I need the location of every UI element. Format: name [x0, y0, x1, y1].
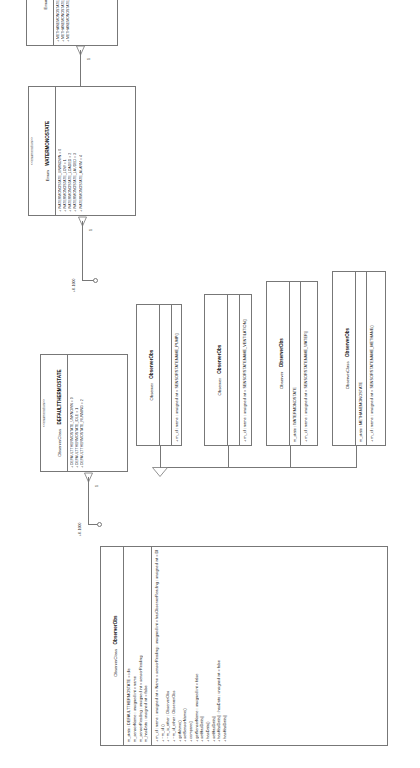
- class-name: ObserverObs: [279, 338, 284, 367]
- class-box-ventilation-observer[interactable]: Observer ObserverObs + m_id : name : uns…: [204, 294, 252, 446]
- edge-gen-methane: [356, 446, 357, 468]
- aggregation-circle-water: [93, 279, 98, 284]
- operation-row: + m_id : name : unsigned int = SENSORSTA…: [174, 308, 180, 442]
- edge-gen-water: [290, 446, 291, 468]
- enum-literal-row: + METHANEMONOSTATE_CRITICAL = 2: [66, 0, 71, 42]
- stereotype-label: <<enumeration>>: [31, 90, 35, 212]
- operation-row: + m_id : name : unsigned int = Name = se…: [154, 550, 160, 742]
- class-box-water-observer[interactable]: Observer ObserverObs m_state : WATERMONO…: [266, 281, 318, 446]
- class-attributes-water-observer: m_state : WATERMONOSTATE: [289, 282, 300, 445]
- attribute-row: m_state : METHANEMONOSTATE: [358, 275, 364, 442]
- diagram-canvas: +0..1000 1 +0..1000 1 +0..1000 1 Observe…: [0, 0, 420, 768]
- stereotype-label: <<enumeration>>: [29, 0, 33, 42]
- multiplicity-methane-one: 1: [87, 58, 91, 60]
- class-header-water-observer: Observer ObserverObs: [267, 282, 289, 445]
- enum-literals-water-mono-state: + WATERMONOSTATE_UNKNOWN = 0 + WATERMONO…: [55, 87, 85, 215]
- class-box-methane-observer[interactable]: ObserverClass ObserverObs m_state : METH…: [332, 271, 386, 446]
- generalization-triangle: [152, 467, 168, 477]
- class-box-pump-observer[interactable]: Observer ObserverObs + m_id : name : uns…: [136, 304, 182, 446]
- class-header-ventilation-observer: Observer ObserverObs: [205, 295, 227, 445]
- operation-row: + hasHasData(): [222, 550, 228, 742]
- edge-gen-ventilation: [228, 446, 229, 468]
- class-attributes-ventilation-observer: [227, 295, 239, 445]
- enum-header-default-thermo-state: <<enumeration>> ObserverClass DEFAULTTHE…: [41, 355, 67, 471]
- class-attributes-observer-base: m_state : DEFAULTTHERMOSTATE = idle m_se…: [123, 547, 151, 745]
- class-keyword: Observer: [217, 378, 222, 395]
- class-attributes-pump-observer: [159, 305, 171, 445]
- class-name: ObserverObs: [217, 345, 222, 374]
- class-operations-water-observer: + m_id : name : unsigned int = SENSORSTA…: [300, 282, 311, 445]
- enum-literals-default-thermo-state: + DEFAULTTHERMOSTATE_UNKNOWN = 0 + DEFAU…: [67, 355, 87, 471]
- multiplicity-base-to-thermo: +0..1000: [78, 523, 82, 536]
- class-keyword: ObserverClass: [345, 361, 350, 389]
- class-attributes-methane-observer: m_state : METHANEMONOSTATE: [355, 272, 366, 445]
- class-name: ObserverObs: [113, 615, 118, 644]
- enum-header-methane-mono-state: <<enumeration>> Enum METHANEMONOSTATE: [27, 0, 53, 45]
- class-keyword: Observer: [279, 372, 284, 389]
- arrowhead-thermostate: [84, 472, 93, 482]
- multiplicity-water-to-enum: +0..1000: [72, 279, 76, 292]
- edge-gen-pump: [160, 446, 161, 468]
- class-operations-pump-observer: + m_id : name : unsigned int = SENSORSTA…: [171, 305, 182, 445]
- enum-header-water-mono-state: <<enumeration>> Enum WATERMONOSTATE: [29, 87, 55, 215]
- attribute-row: m_state : WATERMONOSTATE: [292, 285, 298, 442]
- operation-row: + m_id : name : unsigned int = SENSORSTA…: [369, 275, 375, 442]
- multiplicity-thermo-one: 1: [95, 485, 99, 487]
- operation-row: + m_id : name : unsigned int = SENSORSTA…: [303, 285, 309, 442]
- class-operations-methane-observer: + m_id : name : unsigned int = SENSORSTA…: [366, 272, 377, 445]
- enum-literal-row: + WATERMONOSTATE_ALARM = 4: [79, 90, 84, 212]
- edge-generalization-trunk: [160, 467, 356, 468]
- attribute-row: m_hasData : unsigned int = false: [143, 550, 149, 742]
- class-keyword: Observer: [149, 383, 154, 400]
- class-operations-observer-base: + m_id : name : unsigned int = Name = se…: [151, 547, 230, 745]
- class-operations-ventilation-observer: + m_id : name : unsigned int = SENSORSTA…: [239, 295, 250, 445]
- diagram-stage: +0..1000 1 +0..1000 1 +0..1000 1 Observe…: [0, 0, 420, 768]
- class-header-observer-base: ObserverClass ObserverObs: [101, 547, 123, 745]
- enum-keyword: Enum: [43, 0, 48, 9]
- class-header-methane-observer: ObserverClass ObserverObs: [333, 272, 355, 445]
- class-header-pump-observer: Observer ObserverObs: [137, 305, 159, 445]
- operation-row: + m_id : name : unsigned int = SENSORSTA…: [242, 298, 248, 442]
- multiplicity-water-one: 1: [89, 229, 93, 231]
- class-keyword: ObserverClass: [113, 649, 118, 677]
- class-name: ObserverObs: [345, 328, 350, 357]
- enum-box-water-mono-state[interactable]: <<enumeration>> Enum WATERMONOSTATE + WA…: [28, 86, 136, 216]
- enum-name: DEFAULTTHERMOSTATE: [57, 369, 62, 424]
- aggregation-circle-base: [97, 523, 102, 528]
- enum-keyword: ObserverClass: [57, 429, 62, 457]
- enum-box-default-thermo-state[interactable]: <<enumeration>> ObserverClass DEFAULTTHE…: [40, 354, 128, 472]
- edge-water-to-enum-h: [82, 221, 83, 281]
- edge-base-to-thermostate-h: [88, 477, 89, 525]
- enum-keyword: Enum: [45, 170, 50, 181]
- enum-literals-methane-mono-state: + METHANEMONOSTATE_UNKNOWN = 0 + METHANE…: [53, 0, 73, 45]
- arrowhead-watermonostate: [78, 216, 87, 226]
- class-box-observer-base[interactable]: ObserverClass ObserverObs m_state : DEFA…: [100, 546, 388, 746]
- enum-name: WATERMONOSTATE: [45, 121, 50, 166]
- enum-literal-row: + DEFAULTTHERMOSTATE_RUNNING = 2: [80, 358, 85, 468]
- arrowhead-methanemonostate: [76, 45, 85, 55]
- enum-box-methane-mono-state[interactable]: <<enumeration>> Enum METHANEMONOSTATE + …: [26, 0, 118, 46]
- class-name: ObserverObs: [149, 350, 154, 379]
- stereotype-label: <<enumeration>>: [43, 358, 47, 468]
